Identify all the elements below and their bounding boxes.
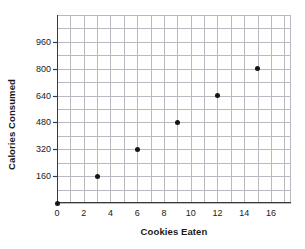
x-tick-label: 0 [54,208,59,218]
x-tick-label: 16 [266,208,276,218]
plot-area [57,15,291,203]
y-tick-label: 960 [36,37,51,47]
y-tick-label: 480 [36,117,51,127]
scatter-chart: Calories Consumed 160320480640800960 024… [0,0,305,249]
y-axis-tick-labels: 160320480640800960 [16,15,51,203]
y-tick-label: 160 [36,171,51,181]
data-point [95,174,100,179]
x-tick-label: 10 [186,208,196,218]
x-tick-label: 12 [212,208,222,218]
y-tick-label: 320 [36,144,51,154]
y-tick-label: 800 [36,64,51,74]
y-tick-label: 640 [36,91,51,101]
x-tick-label: 4 [108,208,113,218]
x-axis-tick-labels: 0246810121416 [57,208,291,222]
data-points-layer [57,15,291,203]
data-point [255,66,260,71]
data-point [175,120,180,125]
data-point [215,93,220,98]
data-point [55,201,60,206]
x-tick-label: 2 [81,208,86,218]
x-tick-label: 6 [135,208,140,218]
x-axis-title: Cookies Eaten [57,226,291,237]
data-point [135,147,140,152]
x-tick-label: 14 [239,208,249,218]
x-tick-label: 8 [161,208,166,218]
